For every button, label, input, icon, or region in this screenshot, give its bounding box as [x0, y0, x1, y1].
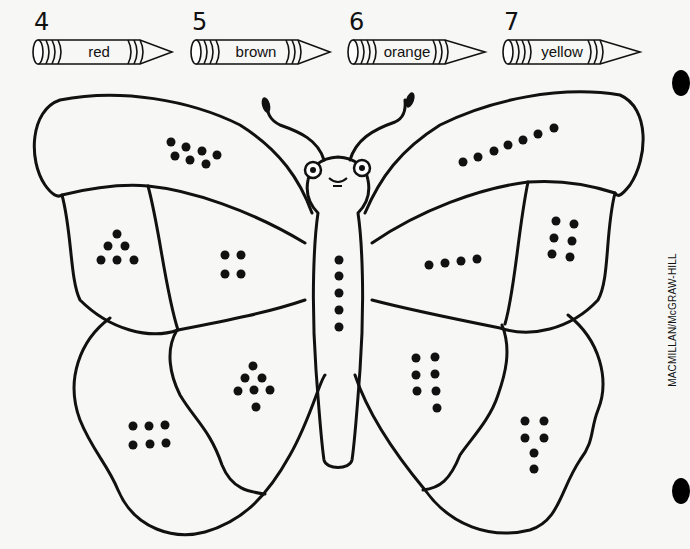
right-upper-wing-vertical-line	[505, 182, 528, 324]
dots-right-upper-wing-inner	[425, 255, 482, 270]
dots-right-lower-wing-outer	[521, 417, 549, 474]
right-upper-wing-band-line	[372, 181, 615, 243]
dots-body	[335, 256, 344, 332]
dots-left-lower-wing-inner	[234, 362, 275, 412]
dots-right-upper-wing-top	[459, 124, 559, 167]
left-lower-wing-divider	[170, 330, 265, 494]
binder-hole-top	[672, 70, 690, 96]
left-upper-wing-vertical-line	[148, 186, 178, 330]
right-upper-wing-outline[interactable]	[365, 92, 643, 332]
right-lower-wing-outline[interactable]	[355, 315, 603, 533]
left-antenna	[268, 104, 325, 160]
right-antenna	[350, 100, 405, 160]
dots-left-upper-wing-top	[167, 138, 222, 169]
dots-left-upper-wing-inner	[221, 251, 246, 279]
left-upper-wing-band-line	[62, 185, 305, 243]
butterfly-smile	[329, 178, 347, 186]
dots-left-lower-wing-outer	[129, 421, 171, 450]
left-antenna-tip	[260, 96, 272, 114]
dots-right-lower-wing-inner	[412, 353, 442, 413]
left-upper-wing-outline[interactable]	[34, 95, 312, 333]
dots-left-upper-wing-outer	[97, 230, 139, 265]
left-lower-wing-outline[interactable]	[74, 318, 325, 535]
binder-hole-bottom	[672, 478, 690, 504]
publisher-credit: MACMILLAN/McGRAW-HILL	[667, 253, 678, 387]
dots-right-upper-wing-outer	[548, 217, 579, 262]
